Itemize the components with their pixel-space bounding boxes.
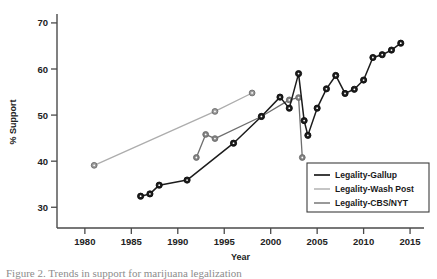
x-tick-label: 2015 xyxy=(399,236,421,247)
axes: 3040506070198019851990199520002005201020… xyxy=(8,14,429,262)
x-tick-label: 2000 xyxy=(260,236,281,247)
x-axis-title: Year xyxy=(231,252,251,262)
data-point-center xyxy=(303,120,305,122)
figure-caption-text: Figure 2. Trends in support for marijuan… xyxy=(0,267,437,279)
x-tick-label: 2005 xyxy=(307,236,329,247)
chart-container: 3040506070198019851990199520002005201020… xyxy=(0,0,437,279)
data-point-center xyxy=(205,134,207,136)
support-trend-line-chart: 3040506070198019851990199520002005201020… xyxy=(0,0,437,279)
data-point-center xyxy=(233,142,235,144)
x-tick-label: 1985 xyxy=(121,236,143,247)
x-tick-label: 1995 xyxy=(214,236,236,247)
y-tick-label: 40 xyxy=(37,156,48,167)
data-point-center xyxy=(372,57,374,59)
data-point-center xyxy=(195,157,197,159)
data-point-center xyxy=(298,97,300,99)
data-point-center xyxy=(335,75,337,77)
data-point-center xyxy=(298,73,300,75)
x-tick-label: 2010 xyxy=(353,236,374,247)
data-point-center xyxy=(391,49,393,51)
data-point-center xyxy=(149,193,151,195)
data-point-center xyxy=(288,99,290,101)
data-point-center xyxy=(381,54,383,56)
data-point-center xyxy=(214,111,216,113)
data-point-center xyxy=(186,179,188,181)
data-point-center xyxy=(279,96,281,98)
y-axis-ticks: 3040506070198019851990199520002005201020… xyxy=(8,17,429,262)
y-tick-label: 50 xyxy=(37,110,48,121)
x-tick-label: 1980 xyxy=(74,236,95,247)
series-legality-wash-post: Legality-GallupLegality-Wash PostLegalit… xyxy=(91,40,429,212)
data-point-center xyxy=(93,164,95,166)
y-axis-title: % Support xyxy=(8,100,18,145)
figure-caption: Figure 2. Trends in support for marijuan… xyxy=(0,267,437,279)
data-point-center xyxy=(344,93,346,95)
data-point-center xyxy=(140,195,142,197)
data-point-center xyxy=(301,157,303,159)
data-point-center xyxy=(288,107,290,109)
data-point-center xyxy=(261,116,263,118)
x-tick-label: 1990 xyxy=(167,236,188,247)
data-point-center xyxy=(214,138,216,140)
data-point-center xyxy=(353,88,355,90)
x-axis-ticks: 19801985199019952000200520102015Year% Su… xyxy=(8,40,429,262)
y-tick-label: 30 xyxy=(37,202,48,213)
legend-label-1: Legality-Gallup xyxy=(335,170,397,180)
data-point-center xyxy=(307,134,309,136)
data-point-center xyxy=(363,79,365,81)
axis-titles: Year% SupportLegality-GallupLegality-Was… xyxy=(8,40,429,262)
series-line xyxy=(94,93,252,165)
data-point-center xyxy=(158,184,160,186)
data-point-center xyxy=(326,88,328,90)
y-tick-label: 70 xyxy=(37,17,48,28)
legend-label-2: Legality-Wash Post xyxy=(335,184,414,194)
data-point-center xyxy=(400,42,402,44)
chart-legend: Legality-GallupLegality-Wash PostLegalit… xyxy=(307,163,429,212)
data-point-center xyxy=(251,92,253,94)
legend-label-3: Legality-CBS/NYT xyxy=(335,198,409,208)
data-point-center xyxy=(316,107,318,109)
y-tick-label: 60 xyxy=(37,64,48,75)
